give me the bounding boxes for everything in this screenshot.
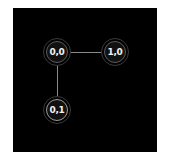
node-label: 0,1 (46, 99, 68, 121)
node-0-0[interactable]: 0,0 (43, 38, 71, 66)
node-label: 0,0 (46, 41, 68, 63)
node-0-1[interactable]: 0,1 (43, 96, 71, 124)
node-1-0[interactable]: 1,0 (101, 38, 129, 66)
edge-0-0-to-0-1 (57, 66, 58, 96)
edge-0-0-to-1-0 (71, 52, 101, 53)
graph-canvas (13, 8, 157, 152)
node-label: 1,0 (104, 41, 126, 63)
